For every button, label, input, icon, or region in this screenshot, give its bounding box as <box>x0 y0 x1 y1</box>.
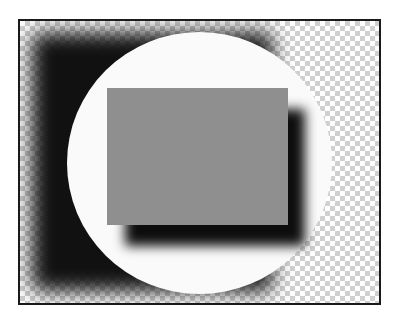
grey-rectangle <box>107 88 288 225</box>
canvas-frame <box>18 19 381 305</box>
